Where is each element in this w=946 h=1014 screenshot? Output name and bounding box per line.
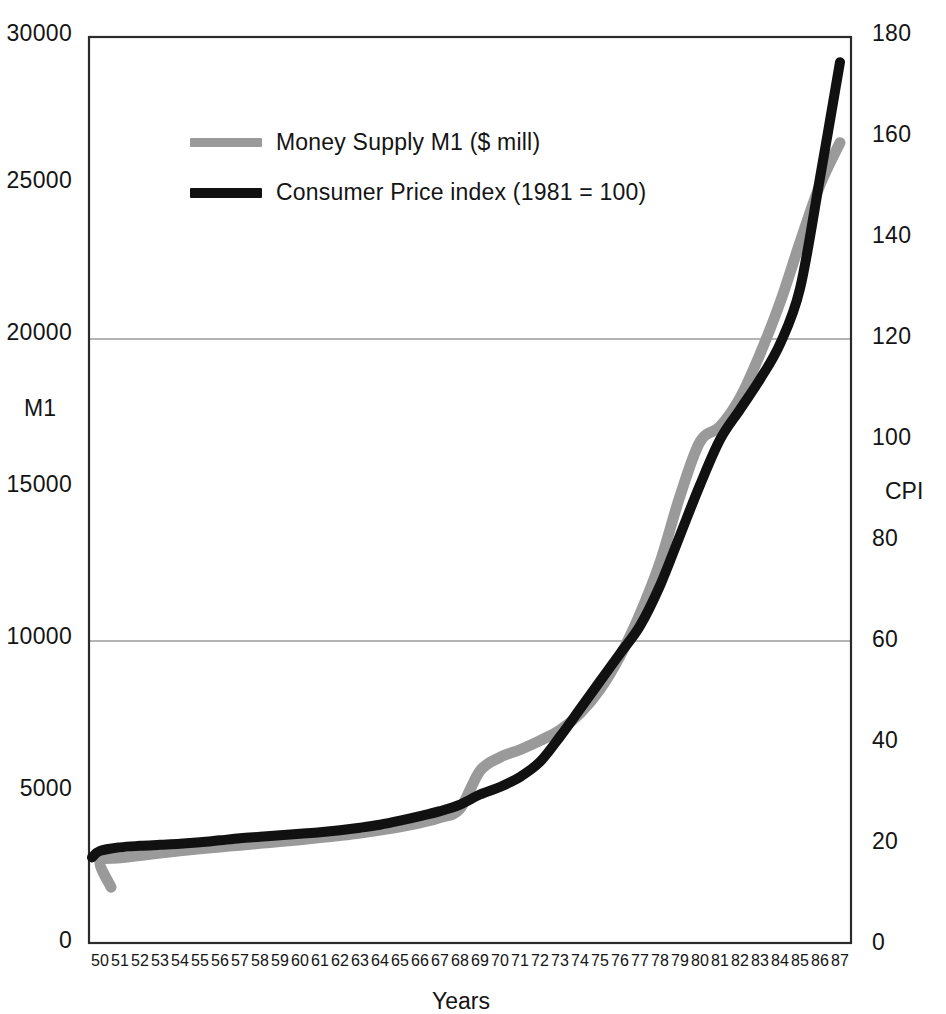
plot-area bbox=[0, 0, 946, 1014]
axis-frame bbox=[89, 37, 851, 943]
plot-border bbox=[89, 37, 851, 943]
chart-container: 300002500020000150001000050000 M1 180160… bbox=[0, 0, 946, 1014]
series-line-consumer-price-index bbox=[92, 62, 840, 857]
series-line-money-supply-m1 bbox=[100, 143, 840, 887]
gridline-group bbox=[89, 339, 851, 641]
